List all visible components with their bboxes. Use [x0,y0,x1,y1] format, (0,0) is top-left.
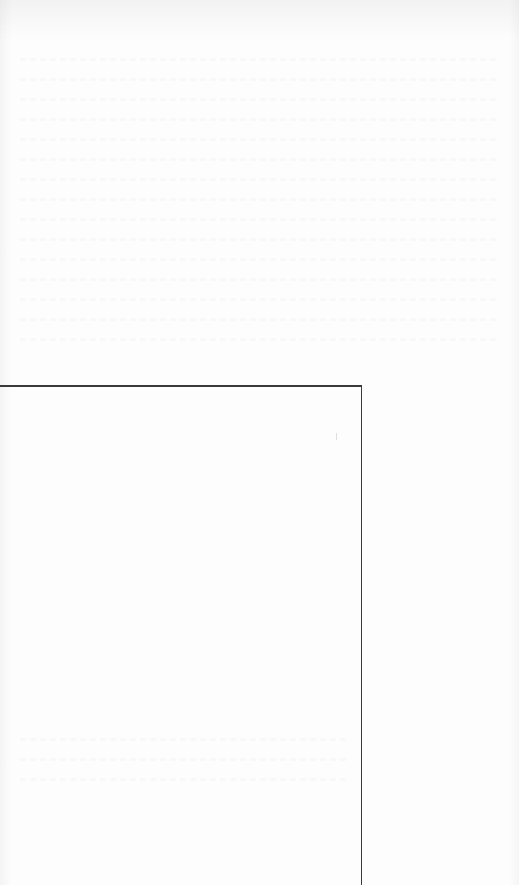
bleed-through-text-bottom [20,738,350,798]
horizontal-rule [0,385,362,387]
bleed-through-text-top [20,58,500,358]
faint-mark [336,433,337,440]
scanned-page [0,0,519,885]
vertical-rule [361,385,363,885]
